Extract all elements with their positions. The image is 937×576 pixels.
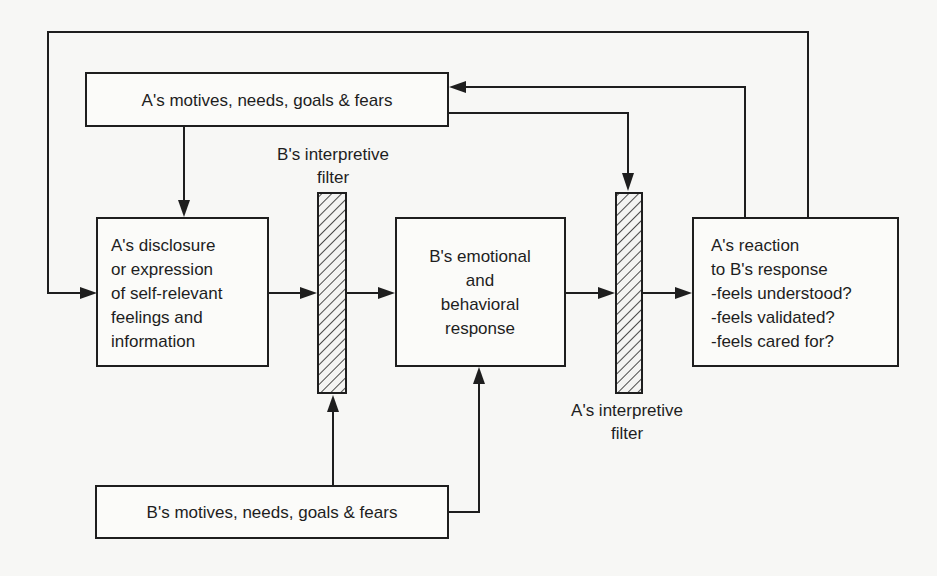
node-a-reaction: A's reaction to B's response -feels unde… — [693, 218, 898, 366]
a-reaction-line-3: -feels understood? — [711, 284, 852, 303]
b-filter-hatched-bar — [318, 193, 346, 393]
b-response-line-4: response — [445, 319, 515, 338]
arrowhead-into-b-response-bottom — [473, 367, 485, 384]
arrowhead-into-a-filter-side — [598, 287, 615, 299]
edge-b-motives-to-response — [448, 376, 479, 512]
a-reaction-line-2: to B's response — [711, 260, 828, 279]
a-disclosure-line-3: of self-relevant — [111, 284, 223, 303]
a-filter-label-line-2: filter — [611, 424, 643, 443]
arrowhead-into-a-filter — [622, 173, 634, 191]
node-a-disclosure: A's disclosure or expression of self-rel… — [97, 218, 268, 366]
a-reaction-line-5: -feels cared for? — [711, 332, 834, 351]
a-disclosure-line-5: information — [111, 332, 195, 351]
b-filter-label-line-2: filter — [317, 168, 349, 187]
arrowhead-into-disclosure-top — [178, 200, 190, 217]
node-b-response: B's emotional and behavioral response — [396, 218, 565, 366]
b-interpretive-filter: B's interpretive filter — [277, 145, 389, 393]
node-a-motives: A's motives, needs, goals & fears — [86, 73, 448, 126]
a-motives-label: A's motives, needs, goals & fears — [142, 91, 393, 110]
arrowhead-into-b-filter-bottom — [327, 395, 339, 412]
b-response-line-3: behavioral — [441, 295, 519, 314]
arrowhead-into-b-filter — [300, 287, 317, 299]
a-filter-label-line-1: A's interpretive — [571, 401, 683, 420]
a-interpretive-filter: A's interpretive filter — [571, 193, 683, 443]
arrowhead-into-a-motives — [449, 81, 466, 93]
a-reaction-line-4: -feels validated? — [711, 308, 835, 327]
edge-reaction-to-motives — [458, 87, 745, 218]
arrowhead-into-disclosure — [80, 287, 97, 299]
b-filter-label-line-1: B's interpretive — [277, 145, 389, 164]
intimacy-process-diagram: A's motives, needs, goals & fears A's di… — [0, 0, 937, 576]
b-response-line-1: B's emotional — [429, 247, 531, 266]
node-b-motives: B's motives, needs, goals & fears — [96, 486, 448, 538]
a-disclosure-line-2: or expression — [111, 260, 213, 279]
arrowhead-into-b-response — [378, 287, 395, 299]
a-disclosure-line-4: feelings and — [111, 308, 203, 327]
b-response-line-2: and — [466, 271, 494, 290]
edge-a-motives-to-a-filter — [448, 113, 628, 182]
b-motives-label: B's motives, needs, goals & fears — [147, 503, 398, 522]
a-reaction-line-1: A's reaction — [711, 236, 799, 255]
a-filter-hatched-bar — [616, 193, 642, 393]
arrowhead-into-reaction — [675, 287, 692, 299]
a-disclosure-line-1: A's disclosure — [111, 236, 215, 255]
